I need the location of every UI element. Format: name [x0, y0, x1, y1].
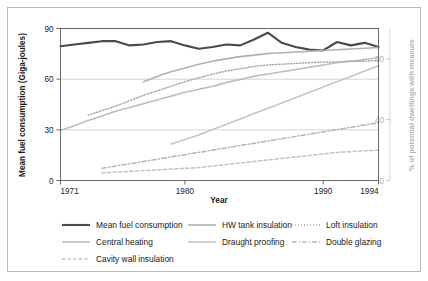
y-tick-label: 90 [44, 25, 54, 34]
y-axis-title: Mean fuel consumption (Giga-joules) [18, 33, 27, 177]
x-tick-label: 1980 [176, 187, 195, 196]
plot-frame [61, 29, 379, 181]
y-tick-label: 30 [44, 126, 54, 135]
legend-label: Double glazing [326, 237, 382, 247]
legend-label: Loft insulation [326, 220, 378, 230]
legend-label: Cavity wall insulation [96, 254, 174, 264]
x-tick-label: 1994 [360, 187, 379, 196]
y-axis-ticks: 0306090 [44, 25, 60, 186]
y2-axis-title: % of potential dwellings with measure [407, 39, 416, 171]
x-axis-ticks: 1971198019901994 [61, 181, 379, 196]
y-tick-label: 0 [49, 177, 54, 186]
y2-tick-label: 80 [375, 55, 385, 64]
legend-item[interactable]: Loft insulation [292, 220, 378, 230]
legend-item[interactable]: Mean fuel consumption [62, 220, 183, 230]
y2-tick-label: 0 [379, 177, 384, 186]
series-group [61, 33, 379, 173]
legend-label: HW tank insulation [222, 220, 292, 230]
legend-item[interactable]: Cavity wall insulation [62, 254, 174, 264]
legend-item[interactable]: Double glazing [292, 237, 382, 247]
right-axis: 04080 [375, 29, 390, 186]
y2-tick-label: 40 [375, 116, 385, 125]
legend-item[interactable]: Draught proofing [188, 237, 285, 247]
chart-figure: 04080 0306090 1971198019901994 Mean fuel… [0, 0, 428, 281]
legend-item[interactable]: HW tank insulation [188, 220, 292, 230]
series-line-mean-fuel-consumption [61, 33, 379, 51]
series-line-hw-tank-insulation [143, 48, 378, 82]
legend-label: Draught proofing [222, 237, 285, 247]
series-line-central-heating [61, 57, 379, 130]
chart-canvas: 04080 0306090 1971198019901994 Mean fuel… [0, 0, 428, 281]
legend-label: Mean fuel consumption [96, 220, 183, 230]
x-tick-label: 1971 [61, 187, 80, 196]
legend-item[interactable]: Central heating [62, 237, 153, 247]
x-tick-label: 1990 [314, 187, 333, 196]
y-tick-label: 60 [44, 75, 54, 84]
legend: Mean fuel consumptionHW tank insulationL… [62, 220, 382, 264]
legend-label: Central heating [96, 237, 153, 247]
x-axis-title: Year [210, 196, 228, 205]
